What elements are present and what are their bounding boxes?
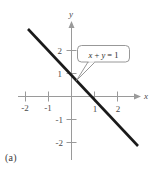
figure-caption: (a) bbox=[5, 152, 17, 163]
y-tick-label-neg1: -1 bbox=[56, 115, 64, 125]
y-axis-arrow-icon bbox=[69, 21, 75, 28]
x-tick-label-pos1: 1 bbox=[93, 104, 98, 114]
y-axis-label: y bbox=[68, 9, 73, 19]
callout-rhs: 1 bbox=[114, 50, 118, 60]
x-axis bbox=[18, 94, 141, 100]
y-tick-label-pos2: 2 bbox=[58, 46, 63, 56]
x-axis-label: x bbox=[143, 91, 148, 101]
figure-container: -2 -1 1 2 2 1 -1 -2 x y x + y = 1 (a) bbox=[0, 0, 158, 175]
callout-pointer-tail bbox=[77, 62, 96, 81]
coordinate-plot: -2 -1 1 2 2 1 -1 -2 x y x + y = 1 bbox=[0, 0, 158, 175]
x-axis-arrow-icon bbox=[134, 94, 141, 100]
x-tick-label-neg2: -2 bbox=[21, 103, 29, 113]
y-axis bbox=[69, 21, 75, 160]
y-tick-label-neg2: -2 bbox=[56, 138, 64, 148]
y-tick-label-pos1: 1 bbox=[58, 69, 63, 79]
callout-equation-label: x + y = 1 bbox=[88, 50, 119, 60]
x-tick-label-pos2: 2 bbox=[116, 104, 121, 114]
x-tick-label-neg1: -1 bbox=[44, 103, 52, 113]
